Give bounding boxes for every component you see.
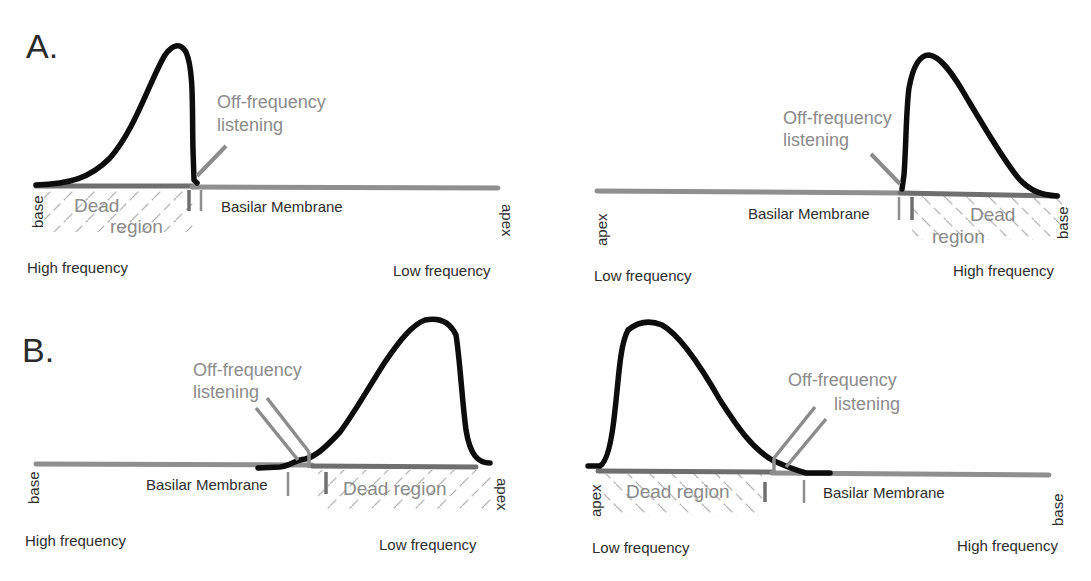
basilar-membrane-label: Basilar Membrane — [221, 198, 343, 215]
freq-label-high: High frequency — [27, 259, 128, 276]
panel-a-right: Off-frequency listening Dead region Basi… — [593, 55, 1071, 284]
off-frequency-arrow — [774, 407, 815, 458]
ofl-label-line1: Off-frequency — [193, 360, 302, 380]
basilar-membrane — [192, 187, 498, 188]
ofl-label-line2: listening — [834, 394, 900, 414]
basilar-membrane-label: Basilar Membrane — [146, 476, 268, 493]
basilar-membrane — [597, 191, 900, 193]
end-label-base: base — [1054, 206, 1071, 239]
dead-region-label-line2: region — [110, 216, 163, 237]
excitation-curve — [258, 319, 490, 468]
freq-label-high: High frequency — [25, 532, 126, 549]
basilar-membrane-label: Basilar Membrane — [748, 205, 870, 222]
off-frequency-arrow — [871, 154, 900, 184]
panel-label-a: A. — [26, 27, 58, 65]
end-label-apex: apex — [593, 213, 610, 246]
off-frequency-arrow — [197, 146, 226, 176]
ofl-label-line1: Off-frequency — [788, 370, 897, 390]
excitation-curve — [36, 46, 197, 185]
dead-region-label-line1: Dead — [74, 195, 119, 216]
basilar-membrane-dead — [598, 471, 772, 472]
freq-label-low: Low frequency — [379, 536, 477, 553]
panel-b-right: Off-frequency listening Dead region Basi… — [587, 322, 1066, 556]
freq-label-low: Low frequency — [594, 267, 692, 284]
dead-region-label-line2: region — [932, 226, 985, 247]
ofl-label-line2: listening — [783, 130, 849, 150]
basilar-membrane-dead — [312, 466, 476, 467]
end-label-apex: apex — [499, 204, 516, 237]
ofl-label-line1: Off-frequency — [217, 92, 326, 112]
basilar-membrane-label: Basilar Membrane — [823, 484, 945, 501]
panel-label-b: B. — [22, 331, 54, 369]
end-label-apex: apex — [494, 478, 511, 511]
panel-a-left: A. Off-frequency listening Dead region B… — [26, 27, 516, 279]
freq-label-low: Low frequency — [592, 539, 690, 556]
excitation-curve — [902, 55, 1057, 196]
dead-region-label-line1: Dead — [970, 204, 1015, 225]
freq-label-low: Low frequency — [393, 262, 491, 279]
end-label-base: base — [25, 471, 42, 504]
ofl-label-line2: listening — [193, 382, 259, 402]
dead-region-diagram: A. Off-frequency listening Dead region B… — [0, 0, 1091, 581]
end-label-base: base — [1049, 493, 1066, 526]
freq-label-high: High frequency — [953, 262, 1054, 279]
excitation-curve — [588, 322, 830, 473]
off-frequency-arrow — [256, 408, 298, 460]
off-frequency-arrow — [786, 419, 826, 467]
ofl-label-line2: listening — [217, 115, 283, 135]
end-label-apex: apex — [587, 484, 604, 517]
off-frequency-arrow — [267, 398, 309, 452]
ofl-label-line1: Off-frequency — [783, 108, 892, 128]
dead-region-label: Dead region — [343, 478, 447, 499]
dead-region-label: Dead region — [626, 481, 730, 502]
freq-label-high: High frequency — [957, 537, 1058, 554]
panel-b-left: B. Off-frequency listening Dead region B… — [22, 319, 511, 553]
end-label-base: base — [29, 195, 46, 228]
